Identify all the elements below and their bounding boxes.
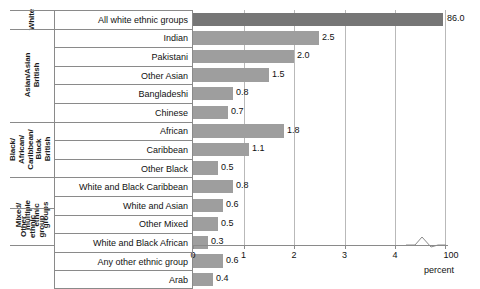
value-label-pakistani: 2.0 — [297, 50, 310, 60]
group-separator — [10, 177, 54, 178]
gridline-4 — [395, 10, 396, 245]
value-label-all-white-ethnic-groups: 86.0 — [447, 13, 465, 23]
category-label: Indian — [163, 33, 188, 43]
bar-indian — [193, 31, 319, 45]
bar-other-black — [193, 161, 218, 175]
group-label-black-outer-text: Black/African/Caribbean/ — [8, 129, 35, 169]
group-separator — [10, 10, 54, 11]
category-row: Chinese — [54, 103, 193, 122]
bar-white-and-black-caribbean — [193, 180, 233, 194]
category-row: Bangladeshi — [54, 84, 193, 103]
category-row: White and Asian — [54, 196, 193, 215]
x-tick-0 — [193, 245, 194, 249]
x-tick-2 — [294, 245, 295, 249]
group-label-black-outer: Black/African/Caribbean/ — [10, 122, 32, 178]
x-tick-label-100: 100 — [443, 250, 458, 260]
value-label-other-mixed: 0.5 — [221, 218, 234, 228]
category-row: African — [54, 122, 193, 141]
plot-area — [193, 10, 448, 245]
value-label-white-and-black-caribbean: 0.8 — [236, 180, 249, 190]
bar-pakistani — [193, 50, 294, 64]
group-separator — [10, 245, 54, 246]
bar-any-other-ethnic-group — [193, 254, 223, 268]
value-label-bangladeshi: 0.8 — [236, 87, 249, 97]
bar-white-and-black-african — [193, 236, 208, 250]
value-label-other-asian: 1.5 — [272, 69, 285, 79]
bar-chinese — [193, 106, 228, 120]
bar-other-asian — [193, 68, 269, 82]
x-axis-title: percent — [424, 265, 454, 275]
category-label: All white ethnic groups — [98, 15, 188, 25]
bar-other-mixed — [193, 217, 218, 231]
category-row: Other Mixed — [54, 215, 193, 234]
category-label: White and Black Caribbean — [79, 182, 188, 192]
category-row: Indian — [54, 29, 193, 48]
bar-african — [193, 124, 284, 138]
x-tick-label-3: 3 — [342, 250, 347, 260]
category-label: Arab — [169, 275, 188, 285]
x-tick-4 — [395, 245, 396, 249]
group-label-white: White — [10, 10, 54, 29]
category-row: Pakistani — [54, 47, 193, 66]
value-label-caribbean: 1.1 — [252, 143, 265, 153]
category-row: White and Black African — [54, 233, 193, 252]
bar-white-and-asian — [193, 199, 223, 213]
x-tick-1 — [244, 245, 245, 249]
value-label-arab: 0.4 — [216, 273, 229, 283]
group-label-other: Otherethnicgroup — [10, 208, 54, 245]
category-label: White and Black African — [93, 238, 188, 248]
group-label-other-text: Otherethnicgroup — [19, 215, 46, 238]
x-axis-line — [193, 245, 448, 246]
category-row: Other Black — [54, 159, 193, 178]
category-label: Bangladeshi — [138, 89, 188, 99]
x-tick-label-4: 4 — [392, 250, 397, 260]
group-label-asian: Asian/AsianBritish — [10, 29, 54, 122]
category-row: Caribbean — [54, 140, 193, 159]
category-label: Any other ethnic group — [97, 257, 188, 267]
value-label-other-black: 0.5 — [221, 162, 234, 172]
category-label: Other Asian — [141, 71, 188, 81]
gridline-100 — [445, 10, 446, 245]
category-label: Other Black — [141, 164, 188, 174]
bar-caribbean — [193, 143, 249, 157]
category-row: Any other ethnic group — [54, 252, 193, 271]
value-label-white-and-asian: 0.6 — [226, 199, 239, 209]
x-tick-label-2: 2 — [291, 250, 296, 260]
x-tick-3 — [345, 245, 346, 249]
group-label-black-inner: BlackBritish — [32, 122, 54, 178]
value-label-african: 1.8 — [287, 125, 300, 135]
x-tick-100 — [445, 245, 446, 249]
category-row: Arab — [54, 270, 193, 289]
category-row: Other Asian — [54, 66, 193, 85]
gridline-3 — [345, 10, 346, 245]
value-label-any-other-ethnic-group: 0.6 — [226, 255, 239, 265]
bar-all-white-ethnic-groups — [193, 13, 443, 27]
group-label-black-inner-text: BlackBritish — [34, 137, 52, 162]
value-label-indian: 2.5 — [322, 32, 335, 42]
category-label: Chinese — [155, 108, 188, 118]
group-separator — [10, 29, 54, 30]
category-row: All white ethnic groups — [54, 10, 193, 29]
category-label: Other Mixed — [139, 219, 188, 229]
category-label: White and Asian — [123, 201, 188, 211]
bar-bangladeshi — [193, 87, 233, 101]
value-label-chinese: 0.7 — [231, 106, 244, 116]
category-row: White and Black Caribbean — [54, 177, 193, 196]
category-label: Caribbean — [146, 145, 188, 155]
category-label: Pakistani — [151, 52, 188, 62]
group-label-asian-text: Asian/AsianBritish — [23, 53, 41, 98]
group-separator — [10, 122, 54, 123]
x-tick-label-1: 1 — [241, 250, 246, 260]
bar-arab — [193, 273, 213, 287]
category-label: African — [160, 126, 188, 136]
group-separator — [10, 208, 54, 209]
group-label-white-text: White — [28, 9, 37, 30]
